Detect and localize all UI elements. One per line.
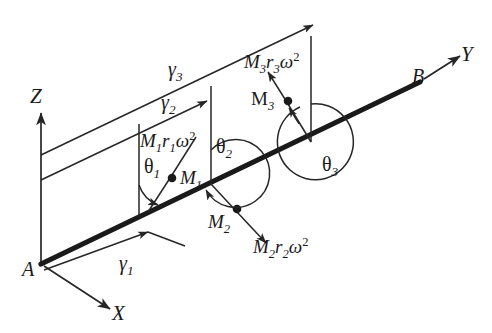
diagram-vector-layer — [0, 0, 492, 333]
gamma2-label: γ2 — [161, 92, 175, 116]
gamma1-label: γ1 — [119, 253, 133, 277]
axis-label-z: Z — [30, 86, 42, 107]
mass-3-group — [268, 72, 311, 142]
force-1-label: M1r1ω2 — [140, 130, 195, 155]
theta3-arc — [277, 104, 353, 180]
axis-y — [424, 56, 460, 79]
axis-label-y: Y — [461, 44, 473, 65]
shaft-label-b: B — [412, 66, 424, 86]
mass-1-dot — [168, 174, 177, 183]
force-2-label: M2r2ω2 — [253, 236, 308, 261]
shaft-ab — [41, 82, 420, 264]
mass-2-dot — [233, 205, 242, 214]
gamma3-label: γ3 — [168, 59, 182, 83]
mass-2-label: M2 — [208, 212, 230, 235]
shaft-label-a: A — [22, 259, 34, 279]
mass-3-label: M3 — [251, 89, 274, 112]
mass-3-dot — [284, 97, 293, 106]
axis-x — [44, 266, 110, 309]
theta3-label: θ3 — [322, 154, 338, 178]
theta1-label: θ1 — [144, 156, 160, 180]
mass-1-label: M1 — [180, 168, 202, 191]
force-3-label: M3r3ω2 — [244, 51, 299, 76]
axis-label-x: X — [112, 303, 125, 324]
theta2-label: θ2 — [216, 136, 232, 160]
diagram-canvas: Z X Y A B γ1 γ2 γ3 M1 M2 M3 M1r1ω2 M2r2ω… — [0, 0, 492, 333]
